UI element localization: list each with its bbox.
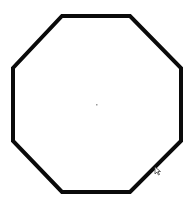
drawing-canvas[interactable] [0,0,193,207]
center-point-marker [96,104,98,106]
mouse-pointer-icon [155,167,161,175]
